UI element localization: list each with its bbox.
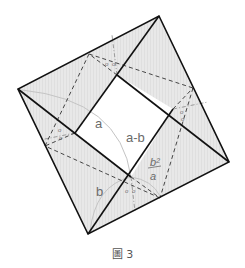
label-a-minus-b: a-b — [126, 130, 145, 145]
svg-text:a: a — [150, 170, 156, 182]
figure-caption: 圖 3 — [0, 245, 245, 261]
label-b: b — [96, 184, 103, 199]
pythagorean-square-diagram: o o o o o o o o a a-b b b² a — [0, 0, 245, 245]
label-a: a — [95, 116, 103, 131]
